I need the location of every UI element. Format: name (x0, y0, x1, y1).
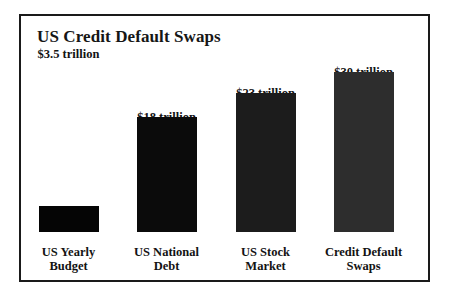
bar-group-credit-default-swaps: $30 trillion Credit Default Swaps (316, 16, 411, 280)
bar-category-label-us-national-debt: US National Debt (119, 245, 214, 275)
chart-frame-border: US Credit Default Swaps $3.5 trillion US… (19, 14, 430, 282)
category-line-2: Budget (21, 259, 116, 274)
category-line-1: US Yearly (21, 245, 116, 260)
chart-figure: US Credit Default Swaps $3.5 trillion US… (0, 0, 449, 298)
category-line-1: US Stock (218, 245, 313, 260)
bar-category-label-credit-default-swaps: Credit Default Swaps (316, 245, 411, 275)
category-line-1: Credit Default (316, 245, 411, 260)
plot-area: $3.5 trillion US Yearly Budget $18 trill… (21, 16, 428, 280)
bar-value-label: $3.5 trillion (21, 47, 116, 62)
bar-category-label-us-stock-market: US Stock Market (218, 245, 313, 275)
category-line-1: US National (119, 245, 214, 260)
category-line-2: Debt (119, 259, 214, 274)
bar-rect-us-yearly-budget (39, 206, 99, 232)
bar-group-us-yearly-budget: $3.5 trillion US Yearly Budget (21, 16, 116, 280)
bar-rect-us-stock-market (236, 93, 296, 232)
bar-category-label-us-yearly-budget: US Yearly Budget (21, 245, 116, 275)
bar-rect-us-national-debt (137, 117, 197, 232)
bar-rect-credit-default-swaps (334, 72, 394, 232)
bar-group-us-national-debt: $18 trillion US National Debt (119, 16, 214, 280)
bar-group-us-stock-market: $23 trillion US Stock Market (218, 16, 313, 280)
category-line-2: Market (218, 259, 313, 274)
category-line-2: Swaps (316, 259, 411, 274)
